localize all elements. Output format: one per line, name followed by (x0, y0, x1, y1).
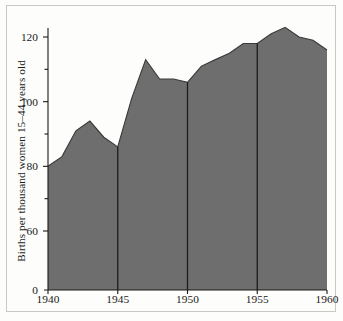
y-tick-label-120: 120 (8, 31, 38, 43)
y-axis-ticks (43, 37, 48, 231)
y-axis-tick-labels: 12010080600 (10, 0, 38, 321)
chart-plot-area (0, 0, 343, 321)
x-tick-label-1950: 1950 (176, 293, 199, 305)
figure: Births per thousand women 15–44 years ol… (0, 0, 343, 321)
x-tick-label-1945: 1945 (106, 293, 129, 305)
x-tick-label-1960: 1960 (316, 293, 339, 305)
x-axis-tick-labels: 19401945195019551960 (0, 293, 343, 313)
x-tick-label-1955: 1955 (246, 293, 269, 305)
y-tick-label-80: 80 (8, 160, 38, 172)
y-tick-label-100: 100 (8, 96, 38, 108)
x-tick-label-1940: 1940 (37, 293, 60, 305)
y-tick-label-60: 60 (8, 225, 38, 237)
